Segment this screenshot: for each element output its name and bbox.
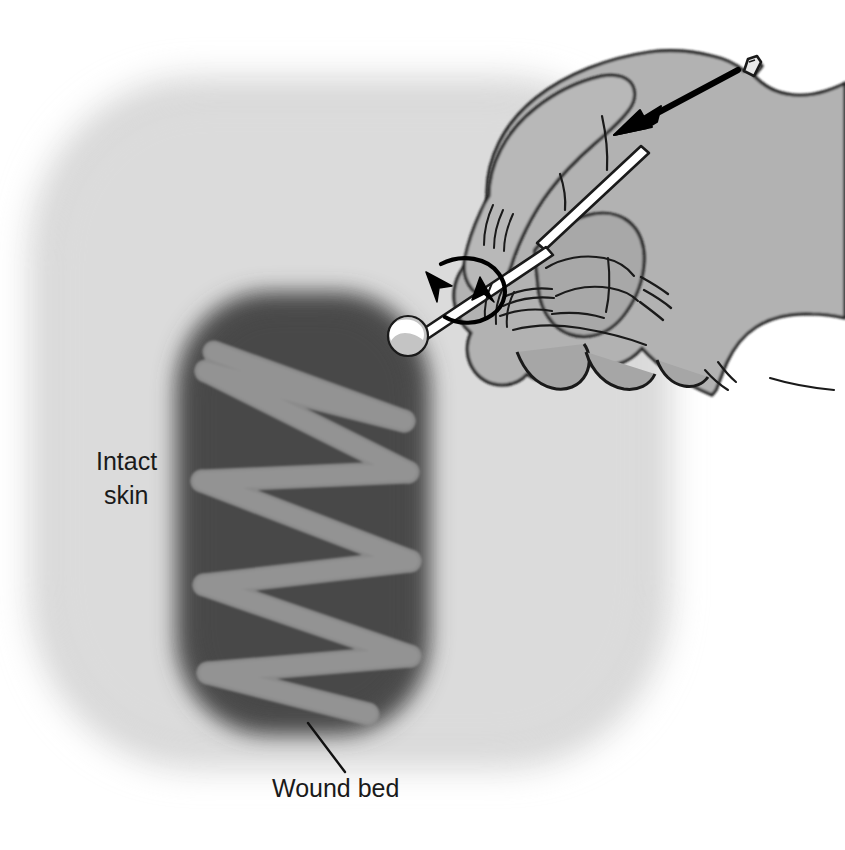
- swab-cotton-tip: [388, 316, 428, 356]
- illustration-canvas: Intact skin Wound bed: [0, 0, 845, 850]
- wound-swab-illustration: Intact skin Wound bed: [0, 0, 845, 850]
- intact-skin-label-line2: skin: [104, 481, 148, 509]
- wound-bed-label: Wound bed: [272, 774, 399, 802]
- intact-skin-label-line1: Intact: [96, 447, 157, 475]
